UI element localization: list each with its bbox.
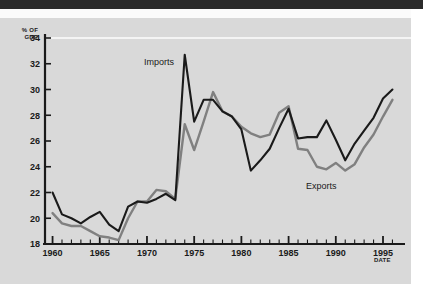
svg-text:1980: 1980 <box>231 248 251 258</box>
series-label-imports: Imports <box>144 57 174 67</box>
svg-text:1985: 1985 <box>279 248 299 258</box>
chart-figure: 182022242628303234 196019651970197519801… <box>0 0 423 284</box>
svg-text:1975: 1975 <box>184 248 204 258</box>
line-chart-plot: 182022242628303234 196019651970197519801… <box>0 0 423 284</box>
series-line-imports <box>53 55 393 231</box>
svg-text:1960: 1960 <box>43 248 63 258</box>
y-axis-caption: % OF GDP <box>8 27 38 41</box>
y-axis-caption-line2: GDP <box>24 34 38 40</box>
svg-text:1965: 1965 <box>90 248 110 258</box>
svg-text:30: 30 <box>30 85 40 95</box>
svg-text:24: 24 <box>30 162 40 172</box>
svg-text:1990: 1990 <box>326 248 346 258</box>
y-axis-caption-line1: % OF <box>22 27 38 33</box>
y-axis-tick-labels: 182022242628303234 <box>30 33 40 249</box>
svg-text:26: 26 <box>30 136 40 146</box>
svg-text:20: 20 <box>30 214 40 224</box>
svg-text:28: 28 <box>30 111 40 121</box>
x-axis-caption: DATE <box>374 257 391 263</box>
x-axis-tick-labels: 19601965197019751980198519901995 <box>43 248 393 258</box>
svg-text:32: 32 <box>30 59 40 69</box>
svg-text:18: 18 <box>30 239 40 249</box>
svg-text:1970: 1970 <box>137 248 157 258</box>
series-label-exports: Exports <box>306 181 337 191</box>
svg-text:22: 22 <box>30 188 40 198</box>
